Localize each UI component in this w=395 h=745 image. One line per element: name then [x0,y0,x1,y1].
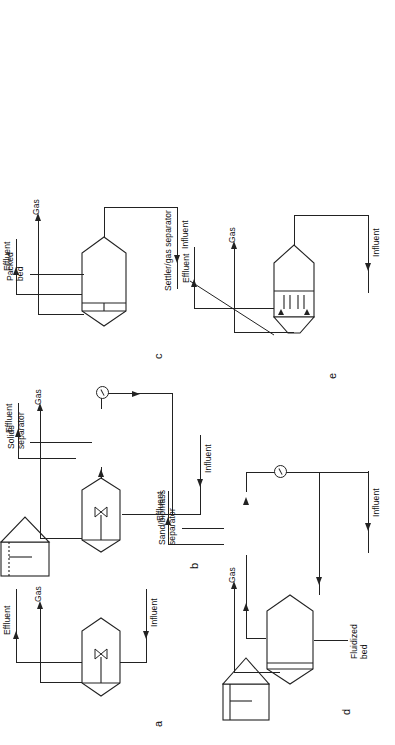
fluidized-bed-leader-d [314,640,348,641]
influent-down-c [104,207,178,208]
transfer-arrow-b [98,469,104,477]
gas-label-c: Gas [32,199,42,215]
gas-arrow-a [37,601,43,609]
separator-label-b-line2: separator [17,403,27,449]
fluidized-bed-label-d-line2: bed [360,613,370,659]
gas-line-d [234,587,235,673]
recycle-arrow-b [132,392,140,398]
influent-line-c [104,207,105,237]
gas-label-e: Gas [228,227,238,243]
panel-d: d Fluidized bed Gas [222,461,394,721]
effluent-line-a [16,589,17,663]
gas-label-d: Gas [228,567,238,583]
gas-riser-b [40,538,82,539]
separator-leader-e [174,269,278,339]
influent-riser-e [294,215,369,216]
panel-a: a Gas [0,585,200,735]
panel-a-letter: a [152,721,164,727]
upflow-arrow-d [243,603,249,611]
influent-label-a: Influent [150,598,160,627]
influent-arrow-d [365,523,371,531]
influent-label-c: Influent [181,220,191,249]
effluent-label-a: Effluent [3,606,13,635]
packed-bed-label-c-line2: bed [16,235,26,281]
panel-c-letter: c [152,354,164,360]
panel-b: b [0,387,235,577]
effluent-arrow-a [13,631,19,639]
reactor-vessel-c [78,235,130,327]
influent-line-a [146,589,147,663]
gas-line-a [40,607,41,683]
separator-label-d-line2: separator [168,475,178,545]
separator-label-e: Settler/gas separator [164,210,174,291]
influent-line-b [200,435,201,515]
recirc-return-arrow-d [316,577,322,585]
separator-leader-b [30,442,92,443]
panel-e: e [222,175,394,405]
panel-d-letter: d [340,709,352,715]
gas-label-a: Gas [34,586,44,602]
panel-e-letter: e [326,373,338,379]
figure-frame: a Gas [0,0,395,745]
reactor-vessel-e [272,243,316,335]
influent-arrow-c [174,255,180,263]
upflow-cross-d [246,555,247,639]
influent-downcomer-a [120,662,147,663]
gas-label-b: Gas [34,389,44,405]
influent-feed-e [294,215,295,246]
influent-line-d [368,471,369,553]
gas-riser-c [38,314,84,315]
influent-label-e: Influent [372,228,382,257]
figure-canvas: a Gas [0,0,395,745]
panel-b-letter: b [188,563,200,569]
separator-leader-d [182,528,224,529]
gas-line-c [38,219,39,315]
gas-riser-a [40,682,82,683]
upflow-line-d [246,638,266,639]
gas-line-b [40,409,41,539]
influent-line-e [368,215,369,293]
influent-arrow-e [365,263,371,271]
packed-bed-leader-c [30,274,84,275]
effluent-riser-a [16,662,82,663]
gas-riser-d [234,672,280,673]
recycle-pump-b [96,386,109,399]
influent-label-b: Influent [204,444,214,473]
recirc-arrow-d [243,497,249,505]
recirculation-pump-d [274,465,287,478]
influent-arrow-a [143,631,149,639]
influent-label-d: Influent [372,488,382,517]
effluent-riser-b [18,458,76,459]
influent-arrow-b [197,479,203,487]
influent-riser-d [319,472,369,473]
impeller-b [93,505,109,519]
recirc-line-d [246,472,247,492]
effluent-riser-c [16,294,82,295]
impeller-a [93,647,109,661]
